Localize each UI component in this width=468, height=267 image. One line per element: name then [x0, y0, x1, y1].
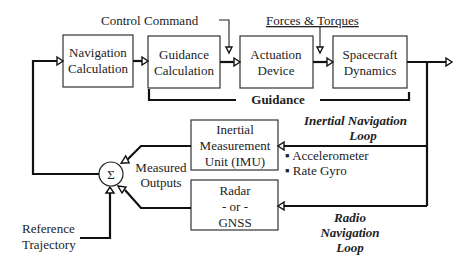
sum-to-navigation-arrow-icon	[57, 57, 63, 65]
actuation-label-line1: Actuation	[250, 47, 302, 62]
guidance-bracket-right	[320, 92, 409, 100]
guidance-label-line1: Guidance	[159, 47, 209, 62]
imu-to-sum-line	[127, 146, 191, 160]
dynamics-label-line1: Spacecraft	[343, 47, 398, 62]
radar-label-line3: GNSS	[218, 215, 251, 230]
imu-input-arrow-icon	[278, 142, 284, 150]
spacecraft-dynamics-block	[333, 36, 407, 88]
guidance-calculation-block	[148, 36, 220, 88]
navigation-label-line2: Calculation	[68, 61, 128, 76]
imu-label-line3: Unit (IMU)	[205, 154, 265, 169]
radar-to-sum-arrow-icon	[118, 186, 126, 193]
dynamics-label-line2: Dynamics	[344, 63, 397, 78]
control-command-label: Control Command	[101, 13, 199, 28]
actuation-label-line2: Device	[258, 63, 295, 78]
imu-label-line1: Inertial	[216, 122, 254, 137]
output-arrow-icon	[446, 58, 452, 66]
forces-torques-label: Forces & Torques	[266, 13, 359, 28]
actuation-to-dynamics-arrow-icon	[327, 58, 333, 66]
radar-input-arrow-icon	[278, 202, 284, 210]
navigation-label-line1: Navigation	[69, 45, 127, 60]
sensor-accelerometer: ▪ Accelerometer	[285, 148, 369, 163]
imu-to-sum-arrow-icon	[121, 156, 129, 163]
radio-loop-label-line2: Navigation	[319, 225, 379, 240]
radar-label-line1: Radar	[219, 183, 251, 198]
actuation-device-block	[240, 36, 313, 88]
measured-outputs-line2: Outputs	[140, 175, 181, 190]
radar-label-line2: - or -	[222, 199, 248, 214]
guidance-label-line2: Calculation	[154, 63, 214, 78]
forces-torques-arrow-icon	[317, 47, 323, 53]
sigma-symbol: Σ	[107, 167, 115, 182]
control-command-arrow-icon	[226, 47, 232, 53]
reference-label-line2: Trajectory	[22, 237, 76, 252]
guidance-bracket-left	[149, 89, 236, 100]
guidance-bracket-label: Guidance	[251, 92, 305, 107]
imu-label-line2: Measurement	[200, 138, 271, 153]
gnc-block-diagram: Control Command Forces & Torques Navigat…	[0, 0, 468, 267]
sensor-rate-gyro: ▪ Rate Gyro	[285, 163, 347, 178]
nav-to-guidance-arrow-icon	[142, 57, 148, 65]
radar-to-sum-line	[125, 190, 191, 208]
radio-loop-label-line1: Radio	[333, 210, 366, 225]
inertial-loop-label-line1: Inertial Navigation	[303, 113, 407, 128]
guidance-to-actuation-arrow-icon	[234, 58, 240, 66]
inertial-loop-label-line2: Loop	[348, 128, 377, 143]
reference-to-sum-arrow-icon	[106, 187, 114, 193]
radio-loop-label-line3: Loop	[335, 240, 364, 255]
reference-label-line1: Reference	[22, 221, 75, 236]
reference-to-sum-line	[80, 193, 110, 238]
measured-outputs-line1: Measured	[135, 160, 187, 175]
